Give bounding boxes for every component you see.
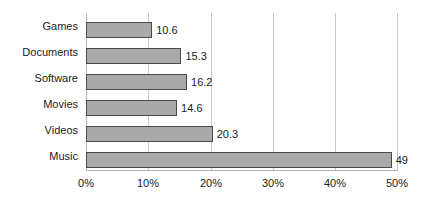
category-label-software: Software [0,70,78,86]
table-row: Movies 14.6 [0,92,428,118]
x-axis-label-10: 10% [118,176,178,190]
bar-chart: Games 10.6 Documents 15.3 Software 16.2 … [0,0,428,212]
table-row: Software 16.2 [0,66,428,92]
table-row: Music 49 [0,144,428,170]
bar-documents [86,48,181,64]
category-label-documents: Documents [0,44,78,60]
category-label-music: Music [0,148,78,164]
table-row: Games 10.6 [0,14,428,40]
category-label-movies: Movies [0,96,78,112]
bar-value-movies: 14.6 [181,100,202,116]
bar-movies [86,100,177,116]
x-axis-label-20: 20% [181,176,241,190]
x-axis-label-40: 40% [305,176,365,190]
x-axis-line [86,170,398,171]
bar-value-music: 49 [396,152,408,168]
table-row: Videos 20.3 [0,118,428,144]
category-label-videos: Videos [0,122,78,138]
x-axis-label-0: 0% [56,176,116,190]
x-axis-label-50: 50% [367,176,427,190]
bar-games [86,22,152,38]
bar-software [86,74,187,90]
bar-videos [86,126,213,142]
category-label-games: Games [0,18,78,34]
bar-value-documents: 15.3 [185,48,206,64]
bar-music [86,152,392,168]
bar-value-software: 16.2 [191,74,212,90]
x-axis-label-30: 30% [243,176,303,190]
table-row: Documents 15.3 [0,40,428,66]
bar-value-games: 10.6 [156,22,177,38]
bar-value-videos: 20.3 [217,126,238,142]
